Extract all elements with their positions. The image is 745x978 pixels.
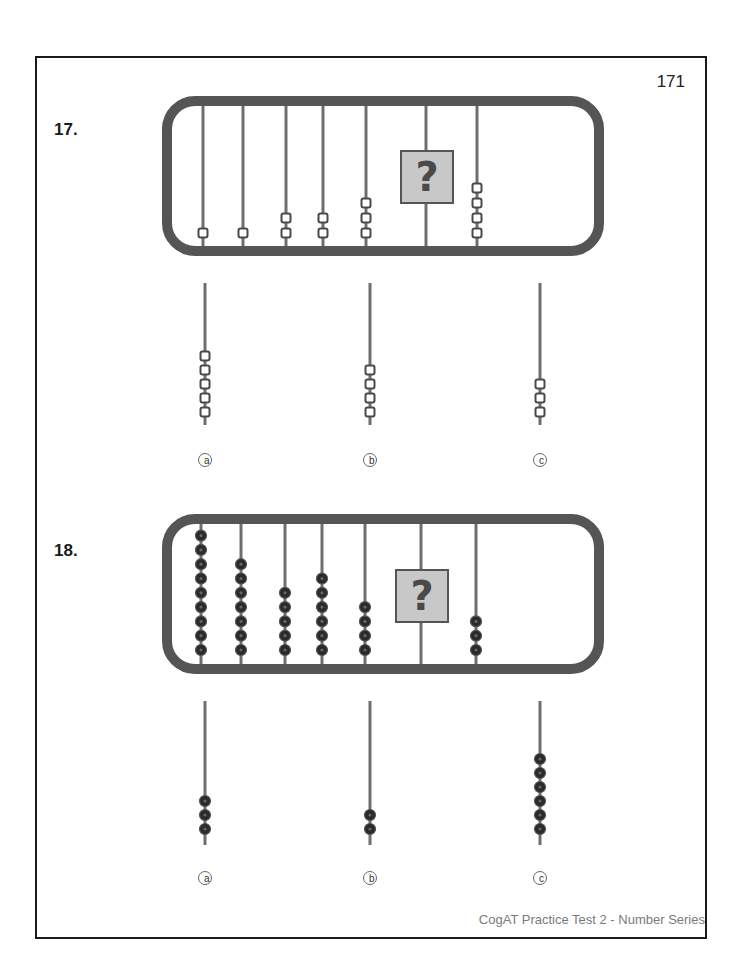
option-c-bubble[interactable]: c (533, 871, 547, 885)
bead (366, 408, 375, 417)
option-a-rod (201, 283, 210, 425)
option-letter: b (369, 873, 375, 884)
bead-center (538, 771, 541, 774)
option-b-bubble[interactable]: b (363, 453, 377, 467)
bead (366, 366, 375, 375)
bead-center (203, 827, 206, 830)
bead (536, 394, 545, 403)
option-c-rod (535, 701, 546, 845)
bead-center (538, 827, 541, 830)
footer-title: CogAT Practice Test 2 - Number Series (479, 912, 705, 927)
option-a-bubble[interactable]: a (198, 871, 212, 885)
bead (201, 380, 210, 389)
option-letter: c (539, 455, 544, 466)
option-letter: a (204, 873, 210, 884)
answer-options (0, 0, 745, 978)
bead-center (368, 813, 371, 816)
option-letter: c (539, 873, 544, 884)
bead-center (538, 813, 541, 816)
bead (366, 394, 375, 403)
option-c-rod (536, 283, 545, 425)
option-letter: a (204, 455, 210, 466)
bead (201, 352, 210, 361)
bead (201, 408, 210, 417)
bead-center (368, 827, 371, 830)
option-b-bubble[interactable]: b (363, 871, 377, 885)
bead-center (203, 799, 206, 802)
bead (536, 380, 545, 389)
bead (366, 380, 375, 389)
bead (536, 408, 545, 417)
option-b-rod (365, 701, 376, 845)
option-a-rod (200, 701, 211, 845)
option-a-bubble[interactable]: a (198, 453, 212, 467)
bead-center (538, 785, 541, 788)
option-c-bubble[interactable]: c (533, 453, 547, 467)
bead-center (538, 799, 541, 802)
bead (201, 394, 210, 403)
bead (201, 366, 210, 375)
option-letter: b (369, 455, 375, 466)
bead-center (538, 757, 541, 760)
bead-center (203, 813, 206, 816)
option-b-rod (366, 283, 375, 425)
